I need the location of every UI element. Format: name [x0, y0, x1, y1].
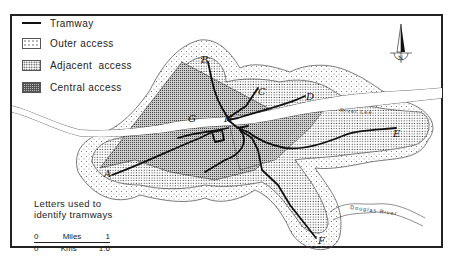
note-line-2: identify tramways — [34, 209, 112, 220]
north-arrow-icon: N — [390, 24, 412, 63]
legend-label: Outer access — [50, 38, 114, 49]
scale-miles-end: 1 — [106, 232, 110, 241]
scale-miles-start: 0 — [34, 232, 38, 241]
legend-item-tramway: Tramway — [22, 16, 132, 30]
note-line-1: Letters used to — [34, 198, 112, 209]
outer-access-swatch — [22, 38, 41, 49]
tramway-label-g: G — [188, 113, 196, 124]
scale-miles-label: Miles — [63, 232, 82, 241]
scale-kms-start: 0 — [34, 244, 38, 253]
legend-label: Adjacent access — [50, 60, 132, 71]
legend-item-adjacent-access: Adjacent access — [22, 58, 132, 72]
tramway-label-h: H — [223, 113, 233, 124]
douglas-river-label: Douglas River — [350, 204, 398, 217]
tramway-label-c: C — [258, 86, 266, 97]
central-access-swatch — [22, 82, 41, 93]
legend-item-outer-access: Outer access — [22, 36, 132, 50]
tramway-label-e: E — [392, 128, 401, 139]
tramway-line-swatch — [22, 22, 41, 24]
map-legend: Tramway Outer access Adjacent access Cen… — [22, 16, 132, 102]
scale-kms-label: Kms — [61, 244, 77, 253]
legend-label: Central access — [50, 82, 122, 93]
tramway-label-b: B — [200, 54, 208, 65]
north-label: N — [398, 54, 403, 61]
letters-note: Letters used to identify tramways — [34, 198, 112, 220]
adjacent-access-swatch — [22, 60, 41, 71]
tramway-label-f: F — [317, 235, 326, 246]
legend-item-central-access: Central access — [22, 80, 132, 94]
tramway-label-a: A — [103, 168, 111, 179]
scale-kms-end: 1.6 — [99, 244, 110, 253]
scale-bar: 0 Miles 1 0 Kms 1.6 — [34, 232, 110, 253]
tramway-label-d: D — [305, 91, 314, 102]
legend-label: Tramway — [50, 18, 94, 29]
scale-line — [34, 242, 110, 243]
